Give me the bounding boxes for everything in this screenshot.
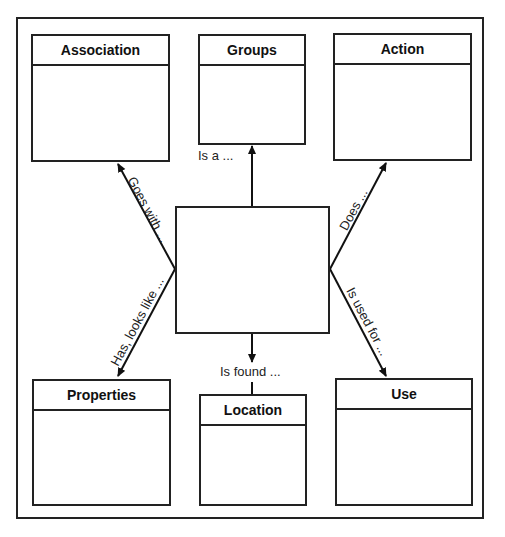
use-box: Use [335, 378, 473, 506]
location-box: Location [199, 394, 307, 506]
groups-box: Groups [198, 34, 306, 145]
center-concept-box [175, 206, 330, 334]
properties-title: Properties [34, 381, 169, 411]
association-title: Association [33, 36, 168, 66]
association-box: Association [31, 34, 170, 162]
groups-title: Groups [200, 36, 304, 66]
use-title: Use [337, 380, 471, 410]
location-title: Location [201, 396, 305, 426]
edge-label-is-a: Is a ... [198, 148, 233, 163]
properties-box: Properties [32, 379, 171, 506]
action-title: Action [335, 35, 470, 65]
edge-label-is-found: Is found ... [220, 364, 281, 379]
action-box: Action [333, 33, 472, 161]
